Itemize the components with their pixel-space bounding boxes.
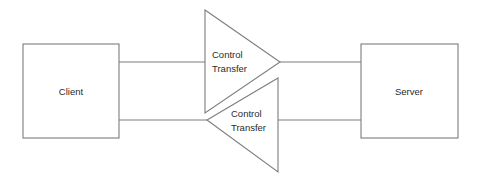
process-control-transfer-response-label-line2: Transfer xyxy=(231,122,266,133)
control-transfer-diagram: Client Server Control Transfer Control T… xyxy=(0,0,483,185)
process-control-transfer-response-label-line1: Control xyxy=(231,108,262,119)
diagram-canvas: Client Server Control Transfer Control T… xyxy=(0,0,483,185)
process-control-transfer-request-label-line2: Transfer xyxy=(212,63,247,74)
node-client-label: Client xyxy=(59,86,84,97)
process-control-transfer-request-label-line1: Control xyxy=(212,49,243,60)
node-server-label: Server xyxy=(395,86,423,97)
